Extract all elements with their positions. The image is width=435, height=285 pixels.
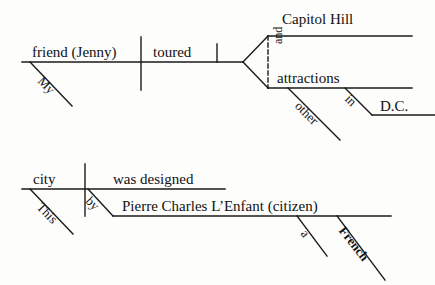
fork-arm-upper-1 [243,36,268,62]
label-verb-2: was designed [113,172,193,187]
label-prep-object-lenfant: Pierre Charles L’Enfant (citizen) [122,199,318,214]
fork-arm-lower-1 [243,62,268,88]
label-conjunction-and: and [272,27,284,44]
sentence-diagram-canvas: friend (Jenny) toured Capitol Hill attra… [0,0,435,285]
label-verb-1: toured [153,45,191,60]
label-subject-1: friend (Jenny) [32,45,117,60]
label-prep-object-dc: D.C. [380,99,408,114]
label-subject-2: city [33,172,56,187]
label-object-attractions: attractions [277,71,339,86]
label-object-capitol-hill: Capitol Hill [282,12,353,27]
diagram-lines [0,0,435,285]
